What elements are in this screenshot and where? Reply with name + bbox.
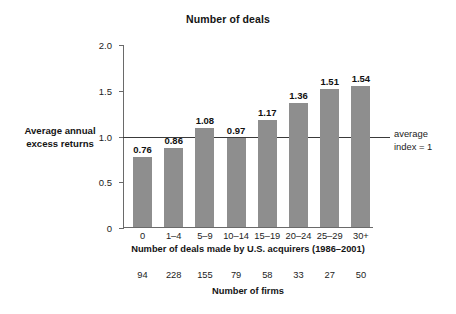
bar-value-label: 1.51 <box>320 76 339 87</box>
y-axis-tick-label: 0.5 <box>99 177 112 188</box>
firm-count-label: 79 <box>231 270 241 280</box>
bar-value-label: 0.97 <box>227 125 246 136</box>
firm-count-label: 33 <box>293 270 303 280</box>
firm-count-label: 155 <box>197 270 213 280</box>
bar-value-label: 0.76 <box>133 144 152 155</box>
chart-figure: Number of deals Average annualexcess ret… <box>0 0 456 314</box>
y-axis-tick-label: 1.0 <box>99 131 112 142</box>
bar: 0.97 <box>227 138 246 227</box>
x-axis-tick-label: 30+ <box>353 231 369 241</box>
firm-count-label: 50 <box>356 270 366 280</box>
bar-value-label: 0.86 <box>164 135 183 146</box>
y-axis-title: Average annualexcess returns <box>8 124 112 150</box>
plot-area: 2.01.51.00.50 0.760.861.080.971.171.361.… <box>123 45 391 228</box>
reference-line-annotation-line1: average <box>394 127 432 140</box>
y-axis-tick-label: 0 <box>107 223 112 234</box>
x-axis-tick-label: 10–14 <box>223 231 249 241</box>
bar: 1.08 <box>195 128 214 227</box>
bar: 1.17 <box>258 120 277 227</box>
y-axis-tick-label: 2.0 <box>99 40 112 51</box>
reference-line-annotation-line2: index = 1 <box>394 140 432 153</box>
bar-value-label: 1.54 <box>352 73 371 84</box>
x-axis-tick-label: 25–29 <box>317 231 343 241</box>
x-axis-line <box>123 227 373 228</box>
x-axis-tick-label: 5–9 <box>197 231 213 241</box>
x-axis-tick-label: 20–24 <box>286 231 312 241</box>
reference-line-annotation: average index = 1 <box>394 127 432 153</box>
x-axis-tick-label: 0 <box>140 231 145 241</box>
bar: 1.54 <box>351 86 370 227</box>
y-axis-tick: 0 <box>119 228 124 229</box>
chart-title: Number of deals <box>0 13 456 25</box>
x-axis-title: Number of deals made by U.S. acquirers (… <box>123 244 373 254</box>
y-axis-tick-label: 1.5 <box>99 85 112 96</box>
y-axis-tick: 2.0 <box>119 45 124 46</box>
firm-count-label: 58 <box>262 270 272 280</box>
bar-value-label: 1.17 <box>258 107 277 118</box>
bar: 0.86 <box>164 148 183 227</box>
y-axis-tick: 1.5 <box>119 91 124 92</box>
bar: 1.36 <box>289 103 308 227</box>
x-axis-tick-label: 15–19 <box>254 231 280 241</box>
bar: 1.51 <box>320 89 339 227</box>
firm-count-label: 228 <box>166 270 182 280</box>
bar-value-label: 1.36 <box>289 90 308 101</box>
secondary-axis-title: Number of firms <box>123 286 373 296</box>
firm-count-label: 94 <box>137 270 147 280</box>
y-axis-title-line1: Average annual <box>8 124 112 137</box>
x-axis-tick-label: 1–4 <box>166 231 182 241</box>
reference-line <box>123 137 390 138</box>
y-axis-tick: 0.5 <box>119 182 124 183</box>
firm-count-label: 27 <box>325 270 335 280</box>
bar-value-label: 1.08 <box>196 115 215 126</box>
bar: 0.76 <box>133 157 152 227</box>
y-axis-title-line2: excess returns <box>8 137 112 150</box>
